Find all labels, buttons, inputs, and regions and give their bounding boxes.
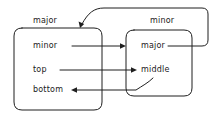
left-row-top-label: top — [33, 65, 47, 75]
right-box-outline — [126, 30, 192, 96]
diagram-canvas: major minor top bottom minor major middl… — [0, 0, 221, 121]
edge-minor-to-major-arrowhead — [120, 43, 126, 49]
edge-middle-to-bottom-arrowhead — [71, 87, 77, 93]
left-box-title: major — [33, 16, 57, 26]
edge-middle-to-bottom-line — [74, 78, 153, 90]
right-row-major-label: major — [141, 41, 165, 51]
right-box-title: minor — [150, 16, 174, 26]
left-box-outline — [14, 28, 102, 110]
left-row-bottom-label: bottom — [33, 85, 63, 95]
right-row-middle-label: middle — [141, 65, 170, 75]
left-row-minor-label: minor — [33, 41, 57, 51]
edge-top-to-middle-arrowhead — [131, 67, 137, 73]
